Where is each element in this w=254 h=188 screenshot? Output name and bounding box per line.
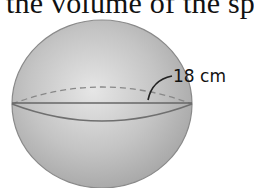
sphere (12, 20, 192, 188)
sphere-diagram (0, 0, 254, 188)
radius-label: 18 cm (173, 66, 226, 86)
